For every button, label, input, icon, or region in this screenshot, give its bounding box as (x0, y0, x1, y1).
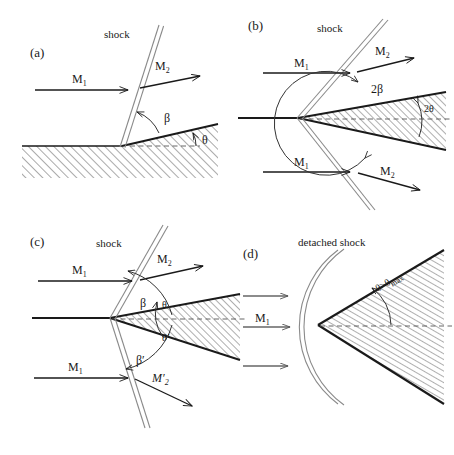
panel-c: (c) shock M1 M2 M1 M′2 β (30, 225, 246, 428)
panel-c-shock-lower-2 (115, 318, 150, 428)
panel-b-2theta-label: 2θ (424, 103, 434, 114)
panel-a-beta-label: β (164, 111, 170, 125)
panel-a-m2-label: M2 (155, 59, 170, 75)
panel-c-tag: (c) (30, 234, 44, 249)
panel-b: (b) shock M1 M2 M1 M2 2β (238, 18, 454, 210)
panel-d: (d) detached shock M1 θ>θmax (243, 236, 452, 409)
panel-a-shock-label: shock (104, 28, 130, 40)
panel-a-m1-label: M1 (72, 72, 87, 88)
panel-a-theta-label: θ (202, 133, 208, 147)
panel-c-m1-top-label: M1 (72, 263, 87, 279)
panel-c-shock-label: shock (96, 237, 122, 249)
panel-c-theta-prime-label: θ′ (162, 332, 170, 343)
panel-c-beta-label: β (140, 296, 146, 310)
panel-b-m1-top-label: M1 (294, 56, 309, 72)
panel-a-ground-hatch (22, 118, 222, 180)
panel-a-beta-arc (137, 112, 159, 133)
panel-c-beta-prime-label: β′ (136, 353, 145, 367)
panel-b-shock-label: shock (317, 22, 343, 34)
panel-b-tag: (b) (248, 18, 263, 33)
panel-c-shock-lower-1 (110, 318, 145, 428)
panel-c-m2-top-label: M2 (157, 252, 172, 268)
panel-b-m2-bot-label: M2 (380, 164, 395, 180)
panel-c-theta-label: θ (162, 299, 167, 310)
panel-a-m2-arrow (140, 76, 200, 88)
panel-d-wedge-hatch (312, 245, 452, 409)
panel-a: (a) shock M1 M2 β θ (22, 25, 222, 180)
panel-b-m2-top-arrow (357, 58, 414, 72)
panel-a-tag: (a) (30, 45, 44, 60)
panel-d-m1-label: M1 (255, 311, 270, 327)
panel-b-m2-top-label: M2 (375, 44, 390, 60)
panel-c-m1-bot-label: M1 (68, 360, 83, 376)
panel-d-tag: (d) (243, 246, 258, 261)
panel-c-m2-top-arrow (140, 266, 203, 280)
panel-c-m2prime-label: M′2 (151, 371, 169, 387)
panel-b-2beta-label: 2β (371, 82, 383, 96)
oblique-shock-figure: (a) shock M1 M2 β θ (b) shock (0, 0, 454, 455)
panel-d-detached-shock-label: detached shock (298, 236, 366, 248)
